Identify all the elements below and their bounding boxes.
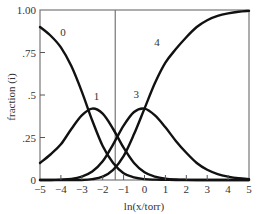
curve-label-0: 0 — [60, 26, 66, 38]
curve-0 — [40, 27, 249, 180]
y-tick-label: .75 — [22, 47, 36, 59]
x-tick-label: 5 — [246, 183, 252, 195]
curve-4 — [40, 11, 249, 180]
curve-1 — [40, 109, 249, 180]
x-tick-label: −4 — [55, 183, 67, 195]
curves — [40, 11, 249, 180]
x-tick-label: 0 — [142, 183, 148, 195]
y-tick-label: 0 — [31, 174, 37, 186]
y-tick-label: 1.00 — [17, 4, 37, 16]
x-tick-label: 2 — [184, 183, 190, 195]
plot-border — [40, 10, 249, 180]
x-tick-label: 1 — [163, 183, 169, 195]
y-axis-title: fraction (i) — [5, 73, 18, 121]
curve-3 — [40, 108, 249, 180]
x-tick-label: −2 — [97, 183, 109, 195]
curve-label-4: 4 — [154, 36, 160, 48]
x-tick-label: 3 — [204, 183, 210, 195]
x-tick-label: −1 — [118, 183, 130, 195]
y-tick-label: .25 — [22, 132, 36, 144]
curve-label-3: 3 — [133, 88, 139, 100]
curve-label-1: 1 — [94, 90, 100, 102]
curve-labels: 0134 — [60, 26, 160, 103]
plot-frame — [40, 10, 249, 180]
fraction-vs-pressure-chart: 0134 −5−4−3−2−1012345 0.25.5.751.00 ln(x… — [0, 0, 259, 214]
y-axis-ticks: 0.25.5.751.00 — [17, 4, 45, 186]
x-axis-title: ln(x/torr) — [124, 200, 165, 213]
y-tick-label: .5 — [28, 89, 37, 101]
x-tick-label: −3 — [76, 183, 88, 195]
x-tick-label: 4 — [225, 183, 231, 195]
